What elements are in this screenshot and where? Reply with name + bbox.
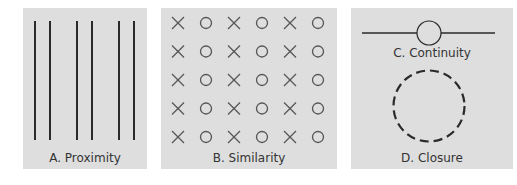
o-symbol: [201, 18, 212, 29]
x-symbol: [284, 17, 296, 29]
x-symbol: [172, 103, 184, 115]
x-symbol: [284, 103, 296, 115]
x-symbol: [228, 103, 240, 115]
o-symbol: [257, 46, 268, 57]
x-symbol: [172, 17, 184, 29]
o-symbol: [201, 103, 212, 114]
o-symbol: [313, 132, 324, 143]
panel-proximity: A. Proximity: [23, 8, 147, 169]
x-symbol: [228, 17, 240, 29]
x-symbol: [172, 131, 184, 143]
o-symbol: [257, 75, 268, 86]
panel-similarity: B. Similarity: [161, 8, 337, 169]
o-symbol: [313, 75, 324, 86]
x-symbol: [284, 46, 296, 58]
x-symbol: [228, 74, 240, 86]
o-symbol: [257, 132, 268, 143]
o-symbol: [313, 103, 324, 114]
x-symbol: [284, 131, 296, 143]
similarity-grid-figure: [161, 8, 337, 169]
panel-continuity-closure: C. Continuity D. Closure: [351, 8, 513, 169]
x-symbol: [228, 131, 240, 143]
o-symbol: [257, 18, 268, 29]
continuity-closure-figure: [351, 8, 513, 169]
o-symbol: [257, 103, 268, 114]
x-symbol: [228, 46, 240, 58]
closure-label: D. Closure: [351, 151, 513, 165]
x-symbol: [172, 74, 184, 86]
x-symbol: [172, 46, 184, 58]
similarity-label: B. Similarity: [161, 151, 337, 165]
o-symbol: [313, 46, 324, 57]
o-symbol: [201, 75, 212, 86]
o-symbol: [201, 132, 212, 143]
continuity-circle: [417, 21, 441, 45]
o-symbol: [313, 18, 324, 29]
closure-dashed-circle: [394, 71, 465, 142]
proximity-label: A. Proximity: [23, 151, 147, 165]
x-symbol: [284, 74, 296, 86]
proximity-lines-figure: [23, 8, 147, 169]
continuity-label: C. Continuity: [351, 46, 513, 60]
o-symbol: [201, 46, 212, 57]
